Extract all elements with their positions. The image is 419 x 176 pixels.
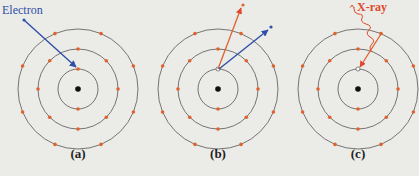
electron bbox=[256, 87, 260, 91]
electron bbox=[396, 87, 400, 91]
electron bbox=[216, 107, 220, 111]
electron bbox=[188, 59, 192, 63]
nucleus bbox=[215, 86, 221, 92]
electron bbox=[76, 47, 80, 51]
electron bbox=[48, 116, 52, 120]
caption-c: (c) bbox=[338, 146, 378, 162]
electron bbox=[245, 116, 249, 120]
electron bbox=[216, 47, 220, 51]
electron bbox=[385, 59, 389, 63]
vacancy bbox=[356, 67, 360, 71]
electron bbox=[132, 64, 136, 68]
electron bbox=[379, 143, 383, 147]
electron-label: Electron bbox=[2, 3, 43, 17]
electron bbox=[333, 143, 337, 147]
electron bbox=[161, 110, 165, 114]
electron bbox=[76, 67, 80, 71]
electron bbox=[99, 143, 103, 147]
electron bbox=[272, 64, 276, 68]
caption-a: (a) bbox=[58, 146, 98, 162]
electron bbox=[239, 143, 243, 147]
electron bbox=[356, 127, 360, 131]
electron bbox=[48, 59, 52, 63]
electron bbox=[36, 87, 40, 91]
nucleus bbox=[75, 86, 81, 92]
electron bbox=[116, 87, 120, 91]
electron bbox=[239, 32, 243, 36]
electron bbox=[216, 127, 220, 131]
electron bbox=[188, 116, 192, 120]
electron bbox=[328, 116, 332, 120]
electron bbox=[105, 116, 109, 120]
electron bbox=[21, 110, 25, 114]
electron bbox=[333, 32, 337, 36]
xray-label: X-ray bbox=[357, 0, 387, 14]
electron bbox=[193, 32, 197, 36]
electron bbox=[105, 59, 109, 63]
ejected-electron bbox=[241, 3, 244, 6]
electron bbox=[328, 59, 332, 63]
electron bbox=[316, 87, 320, 91]
xray-arrowhead-icon bbox=[350, 5, 354, 8]
electron bbox=[76, 107, 80, 111]
electron bbox=[53, 32, 57, 36]
electron bbox=[356, 107, 360, 111]
scattered-electron bbox=[269, 25, 272, 28]
electron bbox=[412, 64, 416, 68]
electron bbox=[301, 110, 305, 114]
electron bbox=[193, 143, 197, 147]
electron bbox=[356, 47, 360, 51]
electron bbox=[53, 143, 57, 147]
electron bbox=[176, 87, 180, 91]
caption-b: (b) bbox=[198, 146, 238, 162]
electron bbox=[76, 127, 80, 131]
electron bbox=[21, 64, 25, 68]
electron bbox=[412, 110, 416, 114]
nucleus bbox=[355, 86, 361, 92]
electron bbox=[301, 64, 305, 68]
electron bbox=[245, 59, 249, 63]
electron bbox=[385, 116, 389, 120]
electron bbox=[132, 110, 136, 114]
electron bbox=[272, 110, 276, 114]
electron bbox=[99, 32, 103, 36]
electron bbox=[161, 64, 165, 68]
